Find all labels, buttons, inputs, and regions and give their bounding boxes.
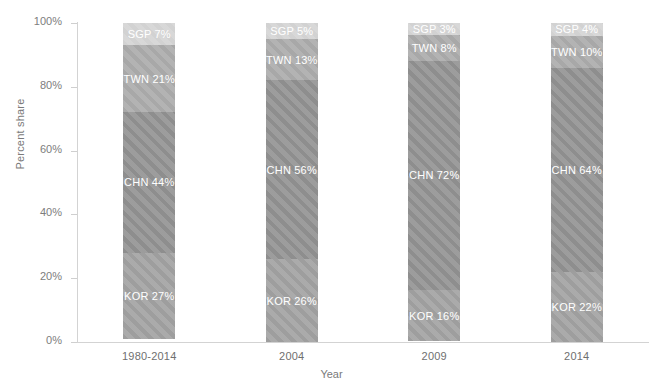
y-axis-tick-label: 20% [40,270,71,282]
bar-segment-label: CHN 72% [409,169,459,181]
bar-segment-kor[interactable]: KOR 22% [551,272,603,342]
bar-segment-twn[interactable]: TWN 21% [123,45,175,112]
bar-segment-label: SGP 3% [413,23,456,35]
plot-area: SGP 7%TWN 21%CHN 44%KOR 27%SGP 5%TWN 13%… [78,23,648,342]
bar-segment-label: TWN 21% [123,73,175,85]
y-axis-tick: 60% [71,151,77,152]
bar-segment-twn[interactable]: TWN 10% [551,36,603,68]
y-axis-tick-label: 100% [34,15,71,27]
bar-segment-sgp[interactable]: SGP 3% [408,23,460,35]
bar-segment-kor[interactable]: KOR 27% [123,253,175,339]
bar-segment-label: KOR 22% [552,301,602,313]
bar-segment-label: CHN 64% [552,164,602,176]
bar-segment-sgp[interactable]: SGP 7% [123,23,175,45]
bar-segment-chn[interactable]: CHN 44% [123,112,175,252]
bar-segment-chn[interactable]: CHN 72% [408,61,460,291]
y-axis-tick-label: 0% [46,334,71,346]
bar-segment-label: SGP 4% [555,23,598,35]
y-axis-tick: 0% [71,342,77,343]
bar-1980-2014[interactable]: SGP 7%TWN 21%CHN 44%KOR 27% [123,23,175,342]
y-axis-title: Percent share [14,74,26,194]
bar-segment-twn[interactable]: TWN 13% [266,39,318,80]
y-axis-tick: 20% [71,278,77,279]
y-axis-tick: 80% [71,87,77,88]
bar-segment-sgp[interactable]: SGP 5% [266,23,318,39]
bar-segment-kor[interactable]: KOR 26% [266,259,318,342]
stacked-bar-chart: Percent share 0%20%40%60%80%100% SGP 7%T… [0,0,663,385]
x-axis-label-2014: 2014 [507,350,647,362]
x-axis-label-1980-2014: 1980-2014 [79,350,219,362]
x-axis-title: Year [0,368,663,380]
bar-2014[interactable]: SGP 4%TWN 10%CHN 64%KOR 22% [551,23,603,342]
bar-segment-label: SGP 7% [128,28,171,40]
bar-segment-label: CHN 44% [124,176,174,188]
x-axis-line [77,342,649,343]
bar-segment-label: TWN 8% [412,42,457,54]
x-axis-label-2009: 2009 [364,350,504,362]
bar-segment-twn[interactable]: TWN 8% [408,35,460,61]
y-axis-tick-label: 40% [40,206,71,218]
y-axis-tick: 100% [71,23,77,24]
bar-segment-chn[interactable]: CHN 56% [266,80,318,259]
bar-segment-kor[interactable]: KOR 16% [408,290,460,341]
bar-segment-label: TWN 13% [266,54,318,66]
x-axis-label-2004: 2004 [222,350,362,362]
bar-segment-label: KOR 26% [267,295,317,307]
y-axis-tick-label: 80% [40,79,71,91]
bar-2009[interactable]: SGP 3%TWN 8%CHN 72%KOR 16% [408,23,460,342]
bar-segment-label: SGP 5% [270,25,313,37]
bar-segment-sgp[interactable]: SGP 4% [551,23,603,36]
y-axis-tick-label: 60% [40,143,71,155]
bar-segment-label: CHN 56% [267,164,317,176]
bar-segment-chn[interactable]: CHN 64% [551,68,603,272]
bar-segment-label: TWN 10% [551,46,603,58]
bar-segment-label: KOR 27% [124,290,174,302]
y-axis-tick: 40% [71,214,77,215]
bar-segment-label: KOR 16% [409,310,459,322]
bar-2004[interactable]: SGP 5%TWN 13%CHN 56%KOR 26% [266,23,318,342]
